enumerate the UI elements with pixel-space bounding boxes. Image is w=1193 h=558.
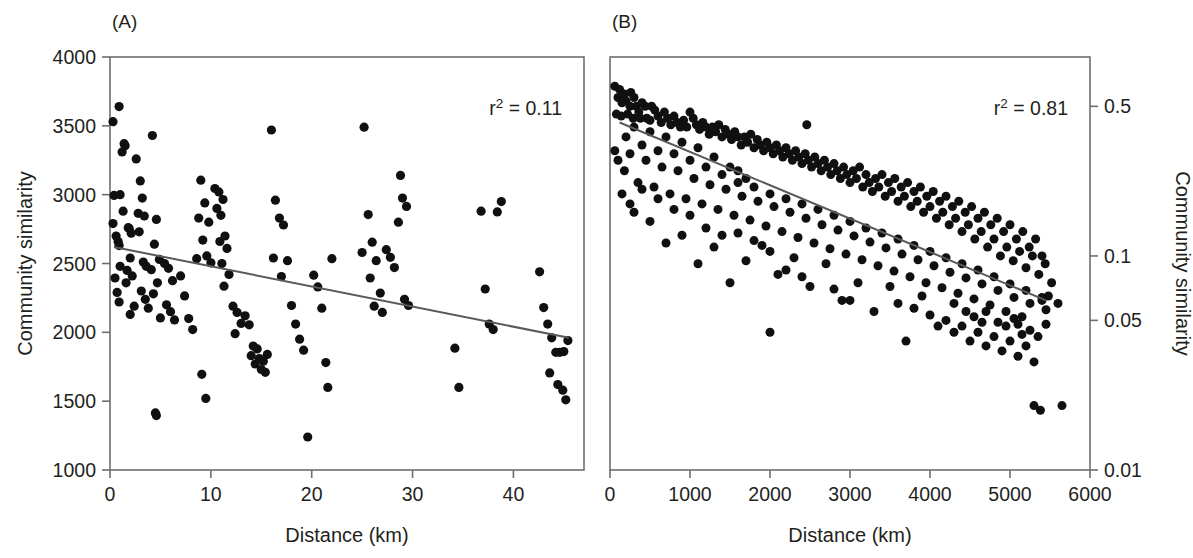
x-tick-label-B-0: 0 xyxy=(605,483,616,505)
data-point xyxy=(738,192,747,201)
data-point xyxy=(1022,341,1031,350)
data-point xyxy=(642,156,651,165)
data-point xyxy=(147,265,156,274)
data-point xyxy=(558,386,567,395)
scatter-plot-figure: (A)1000150020002500300035004000010203040… xyxy=(0,0,1193,558)
data-point xyxy=(630,208,639,217)
data-point xyxy=(1034,332,1043,341)
y-tick-label-B-1: 0.05 xyxy=(1104,309,1142,331)
data-point xyxy=(115,297,124,306)
data-point xyxy=(694,259,703,268)
data-point xyxy=(614,156,623,165)
data-point xyxy=(983,243,992,252)
data-point xyxy=(658,163,667,172)
data-point xyxy=(806,282,815,291)
data-point xyxy=(706,180,715,189)
data-point xyxy=(998,346,1007,355)
data-point xyxy=(1012,235,1021,244)
y-tick-label-A-5: 3500 xyxy=(53,115,97,137)
data-point xyxy=(618,98,627,107)
data-point xyxy=(826,244,835,253)
x-tick-label-A-3: 30 xyxy=(402,483,424,505)
data-point xyxy=(323,383,332,392)
y-tick-label-B-2: 0.1 xyxy=(1104,245,1131,267)
data-point xyxy=(543,320,552,329)
data-point xyxy=(1002,243,1011,252)
panel-label-B: (B) xyxy=(612,11,637,32)
data-point xyxy=(802,214,811,223)
data-point xyxy=(650,183,659,192)
data-point xyxy=(630,93,639,102)
y-tick-label-A-6: 4000 xyxy=(53,46,97,68)
data-point xyxy=(200,198,209,207)
data-point xyxy=(964,220,973,229)
data-point xyxy=(150,240,159,249)
data-point xyxy=(394,218,403,227)
y-tick-label-A-4: 3000 xyxy=(53,184,97,206)
y-tick-label-A-0: 1000 xyxy=(53,459,97,481)
data-point xyxy=(982,307,991,316)
data-point xyxy=(794,233,803,242)
data-point xyxy=(1006,337,1015,346)
data-point xyxy=(670,205,679,214)
data-point xyxy=(1002,322,1011,331)
data-point xyxy=(646,217,655,226)
data-point xyxy=(854,278,863,287)
data-point xyxy=(977,227,986,236)
data-point xyxy=(493,207,502,216)
data-point xyxy=(670,149,679,158)
data-point xyxy=(497,197,506,206)
data-point xyxy=(317,304,326,313)
data-point xyxy=(945,220,954,229)
data-point xyxy=(1028,251,1037,260)
data-point xyxy=(762,222,771,231)
x-tick-label-B-4: 4000 xyxy=(908,483,952,505)
x-tick-label-B-6: 6000 xyxy=(1068,483,1112,505)
data-point xyxy=(862,170,871,179)
data-point xyxy=(626,149,635,158)
data-point xyxy=(368,238,377,247)
data-point xyxy=(866,238,875,247)
panel-label-A: (A) xyxy=(112,11,137,32)
data-point xyxy=(842,250,851,259)
data-point xyxy=(1026,299,1035,308)
data-point xyxy=(370,302,379,311)
data-point xyxy=(786,208,795,217)
data-point xyxy=(180,291,189,300)
data-point xyxy=(1026,326,1035,335)
data-point xyxy=(682,194,691,203)
data-point xyxy=(850,231,859,240)
y-tick-label-B-0: 0.01 xyxy=(1104,459,1142,481)
data-point xyxy=(396,171,405,180)
data-point xyxy=(666,189,675,198)
x-tick-label-B-3: 3000 xyxy=(828,483,872,505)
data-point xyxy=(742,256,751,265)
data-point xyxy=(219,282,228,291)
x-axis-title-B: Distance (km) xyxy=(788,524,911,546)
data-point xyxy=(950,299,959,308)
y-tick-label-B-3: 0.5 xyxy=(1104,95,1131,117)
data-point xyxy=(152,215,161,224)
data-point xyxy=(722,185,731,194)
data-point xyxy=(922,278,931,287)
data-point xyxy=(758,241,767,250)
data-point xyxy=(938,208,947,217)
data-point xyxy=(906,272,915,281)
data-point xyxy=(916,183,925,192)
data-point xyxy=(750,183,759,192)
data-point xyxy=(222,244,231,253)
data-point xyxy=(898,250,907,259)
data-point xyxy=(545,368,554,377)
r2-value: = 0.81 xyxy=(1008,97,1068,119)
data-point xyxy=(137,286,146,295)
data-point xyxy=(140,211,149,220)
data-point xyxy=(217,259,226,268)
data-point xyxy=(398,194,407,203)
data-point xyxy=(646,116,655,125)
data-point xyxy=(638,185,647,194)
data-point xyxy=(818,220,827,229)
data-point xyxy=(746,216,755,225)
data-point xyxy=(1030,357,1039,366)
data-point xyxy=(149,289,158,298)
data-point xyxy=(900,192,909,201)
